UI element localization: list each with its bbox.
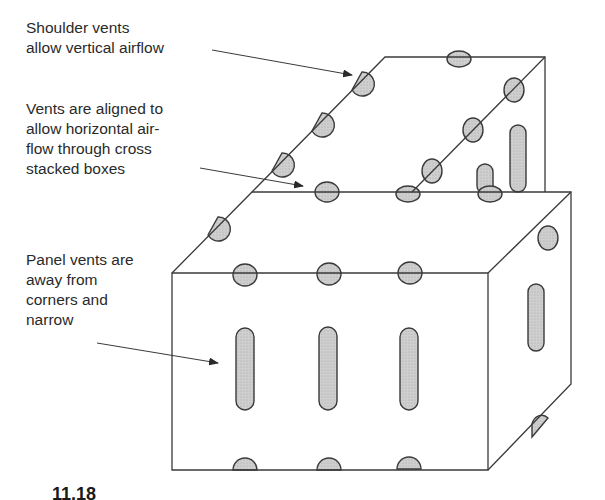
shoulder-vents-arrow (212, 50, 352, 75)
top-box-vents (272, 51, 526, 194)
figure-number: 11.18 (52, 484, 96, 500)
panel-vents-arrow (97, 343, 218, 363)
panel-vents-label: Panel vents are away from corners and na… (26, 250, 134, 330)
aligned-vents-label: Vents are aligned to allow horizontal ai… (26, 99, 163, 179)
shoulder-vents-label: Shoulder vents allow vertical airflow (26, 18, 164, 58)
